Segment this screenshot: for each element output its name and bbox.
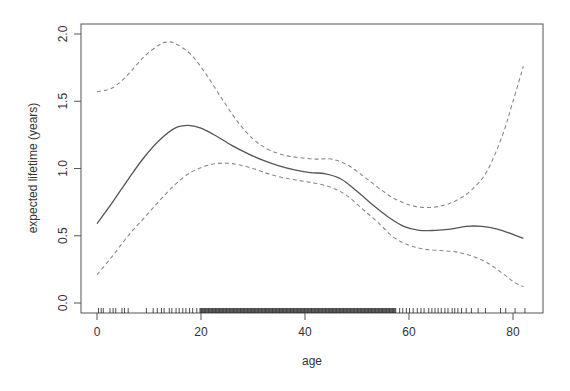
gam-plot: 0.00.51.01.52.0 020406080 age expected l…: [0, 0, 570, 391]
y-tick-label: 0.0: [56, 294, 70, 311]
x-axis-label: age: [302, 354, 322, 368]
x-tick-label: 20: [194, 325, 208, 339]
x-tick-label: 0: [94, 325, 101, 339]
chart-container: 0.00.51.01.52.0 020406080 age expected l…: [0, 0, 570, 391]
y-tick-label: 2.0: [56, 25, 70, 42]
x-tick-label: 40: [298, 325, 312, 339]
rug-marks: [99, 308, 525, 313]
y-tick-label: 0.5: [56, 227, 70, 244]
x-tick-label: 80: [506, 325, 520, 339]
y-axis-label: expected lifetime (years): [26, 103, 40, 234]
x-axis: 020406080: [94, 313, 520, 339]
y-tick-label: 1.0: [56, 160, 70, 177]
series-group: [97, 42, 523, 287]
y-axis: 0.00.51.01.52.0: [56, 25, 81, 311]
lower-confidence-line: [97, 163, 523, 287]
x-tick-label: 60: [402, 325, 416, 339]
y-tick-label: 1.5: [56, 93, 70, 110]
plot-frame: [81, 24, 543, 313]
